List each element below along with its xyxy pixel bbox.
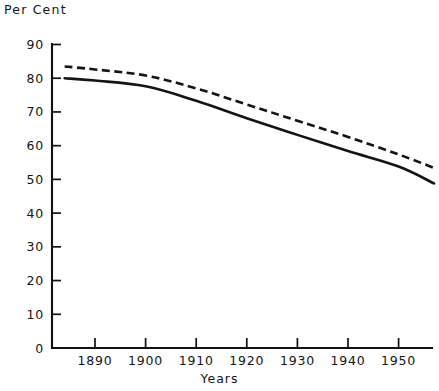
y-tick-label: 0 [35,341,44,356]
line-chart: Per Cent Years 0102030405060708090 18901… [0,0,439,391]
axis-lines [52,44,432,348]
x-tick-label: 1950 [381,353,416,368]
x-axis-title: Years [0,371,439,386]
y-tick-label: 50 [26,172,44,187]
y-axis-ticks: 0102030405060708090 [26,37,61,356]
x-tick-label: 1940 [330,353,365,368]
data-series [65,66,434,183]
x-tick-label: 1900 [128,353,163,368]
x-axis-ticks: 1890190019101920193019401950 [77,338,416,368]
x-tick-label: 1890 [77,353,112,368]
y-tick-label: 20 [26,273,44,288]
series-line-solid-lower [65,78,434,183]
y-axis-title: Per Cent [4,2,67,17]
x-tick-label: 1920 [229,353,264,368]
y-tick-label: 40 [26,206,44,221]
x-tick-label: 1910 [179,353,214,368]
y-tick-label: 70 [26,104,44,119]
y-tick-label: 60 [26,138,44,153]
x-tick-label: 1930 [280,353,315,368]
y-tick-label: 90 [26,37,44,52]
y-tick-label: 10 [26,307,44,322]
y-tick-label: 80 [26,71,44,86]
plot-area: 0102030405060708090 18901900191019201930… [0,0,439,391]
y-tick-label: 30 [26,239,44,254]
